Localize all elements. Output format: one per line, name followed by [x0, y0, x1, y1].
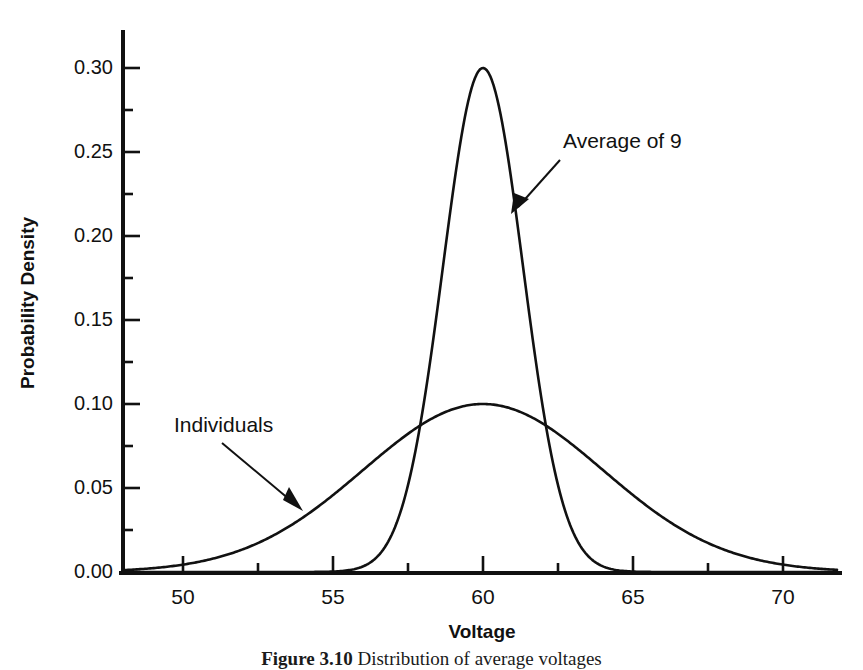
figure-caption: Figure 3.10 Distribution of average volt…	[0, 648, 863, 670]
figure-container: 0.30 0.25 0.20 0.15 0.10 0.05 0.00 50 55…	[0, 0, 863, 670]
y-tick-label-015: 0.15	[74, 308, 113, 330]
y-tick-label-005: 0.05	[74, 476, 113, 498]
figure-caption-label: Figure 3.10	[261, 648, 352, 669]
y-tick-label-020: 0.20	[74, 224, 113, 246]
annotation-average-of-9: Average of 9	[563, 129, 682, 152]
curve-average-of-9	[123, 68, 837, 572]
probability-density-chart: 0.30 0.25 0.20 0.15 0.10 0.05 0.00 50 55…	[0, 0, 863, 648]
figure-caption-text: Distribution of average voltages	[357, 648, 601, 669]
y-tick-label-030: 0.30	[74, 56, 113, 78]
x-tick-label-70: 70	[771, 585, 794, 608]
y-axis-major-ticks	[123, 68, 140, 572]
x-axis-major-ticks	[183, 556, 783, 573]
x-tick-label-65: 65	[621, 585, 644, 608]
y-axis-title: Probability Density	[17, 217, 38, 390]
annotation-individuals-arrow	[222, 443, 303, 511]
x-tick-label-50: 50	[171, 585, 194, 608]
x-axis-title: Voltage	[448, 621, 515, 642]
y-tick-label-025: 0.25	[74, 140, 113, 162]
x-tick-label-55: 55	[321, 585, 344, 608]
y-tick-label-010: 0.10	[74, 392, 113, 414]
y-tick-label-000: 0.00	[74, 560, 113, 582]
annotation-individuals: Individuals	[174, 413, 273, 436]
annotation-average-of-9-arrow	[511, 160, 560, 214]
x-tick-label-60: 60	[471, 585, 494, 608]
